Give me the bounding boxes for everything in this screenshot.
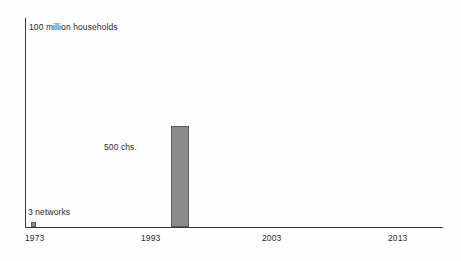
- x-tick-label-1973: 1973: [25, 233, 44, 243]
- bar-1973: [31, 222, 36, 227]
- bar-1993: [171, 126, 189, 227]
- annotation-3-networks: 3 networks: [28, 207, 70, 217]
- y-axis-line: [25, 18, 26, 227]
- x-tick-label-1993: 1993: [141, 233, 160, 243]
- x-axis-line: [25, 227, 443, 228]
- annotation-500-channels: 500 chs.: [104, 142, 137, 152]
- y-axis-title: 100 million households: [29, 22, 118, 32]
- chart-container: 100 million households 3 networks 500 ch…: [0, 0, 461, 261]
- x-tick-label-2013: 2013: [388, 233, 407, 243]
- x-tick-label-2003: 2003: [262, 233, 281, 243]
